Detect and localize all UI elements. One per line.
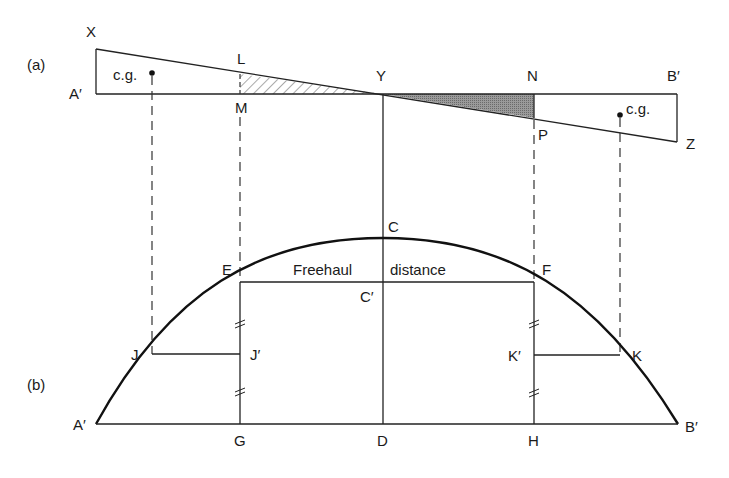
label-cg-left: c.g.: [113, 66, 137, 83]
label-c-prime: C′: [360, 288, 374, 305]
label-g: G: [234, 432, 246, 449]
label-e: E: [222, 261, 232, 278]
label-f: F: [542, 261, 551, 278]
label-distance: distance: [390, 261, 446, 278]
label-b-prime-top: B′: [667, 67, 680, 84]
line-x-z: [96, 49, 677, 142]
mass-haul-diagram: (a) X L Y N B′ A′ M P Z c.g. c.g.: [0, 0, 729, 478]
label-x: X: [86, 23, 96, 40]
shaded-area-ynp: [383, 94, 534, 118]
label-a-prime-top: A′: [69, 85, 82, 102]
projection-lines: [152, 76, 620, 424]
label-k-prime: K′: [508, 347, 521, 364]
panel-b-label: (b): [27, 376, 45, 393]
label-cg-right: c.g.: [626, 100, 650, 117]
label-m: M: [235, 99, 248, 116]
label-c: C: [388, 218, 399, 235]
label-j: J: [131, 346, 139, 363]
label-l: L: [237, 50, 245, 67]
label-k: K: [632, 347, 642, 364]
cg-point-left: [149, 70, 155, 76]
label-n: N: [527, 67, 538, 84]
label-a-prime-bottom: A′: [73, 416, 86, 433]
label-y: Y: [376, 67, 386, 84]
panel-a-label: (a): [27, 56, 45, 73]
tick-marks: [235, 320, 539, 397]
label-freehaul: Freehaul: [293, 261, 352, 278]
panel-b: (b) C E F Freehaul distance C′ J J′ K′ K…: [27, 218, 698, 449]
label-d: D: [377, 432, 388, 449]
label-p: P: [538, 126, 548, 143]
cg-point-right: [617, 112, 623, 118]
label-b-prime-bottom: B′: [685, 418, 698, 435]
label-j-prime: J′: [250, 346, 261, 363]
label-z: Z: [686, 135, 695, 152]
panel-a: (a) X L Y N B′ A′ M P Z c.g. c.g.: [27, 23, 695, 152]
label-h: H: [528, 432, 539, 449]
mass-haul-curve: [96, 238, 678, 424]
